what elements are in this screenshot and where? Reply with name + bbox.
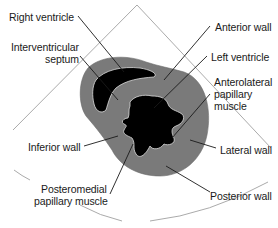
label-anterolateral-papillary-muscle-line2: papillary [214, 88, 252, 100]
label-interventricular-septum-line2: septum [45, 53, 79, 65]
label-left-ventricle: Left ventricle [211, 51, 269, 63]
label-posteromedial-papillary-muscle-line1: Posteromedial [41, 183, 107, 195]
label-posterior-wall: Posterior wall [210, 190, 272, 202]
label-inferior-wall: Inferior wall [28, 141, 80, 153]
label-posteromedial-papillary-muscle-line2: papillary muscle [34, 195, 108, 207]
label-anterior-wall: Anterior wall [215, 21, 271, 33]
label-right-ventricle: Right ventricle [9, 11, 74, 23]
label-anterolateral-papillary-muscle-line3: muscle [214, 100, 247, 112]
label-lateral-wall: Lateral wall [220, 144, 272, 156]
label-interventricular-septum-line1: Interventricular [11, 41, 79, 53]
label-anterolateral-papillary-muscle-line1: Anterolateral [214, 76, 272, 88]
